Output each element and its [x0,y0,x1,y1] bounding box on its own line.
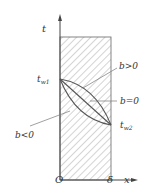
label-b-negative: b<0 [15,130,34,140]
diagram-canvas: t x O δ tw1 tw2 b>0 b=0 b<0 [0,0,155,195]
y-axis-label: t [42,23,47,34]
label-b-zero: b=0 [120,96,139,106]
x-axis-arrow-icon [131,178,138,182]
y-axis-arrow-icon [58,14,62,21]
t-w1-label: tw1 [37,74,50,85]
origin-label: O [55,174,63,185]
thickness-label: δ [107,174,113,185]
x-axis-label: x [124,174,130,185]
label-b-positive: b>0 [119,61,138,71]
t-w2-label: tw2 [120,120,133,131]
